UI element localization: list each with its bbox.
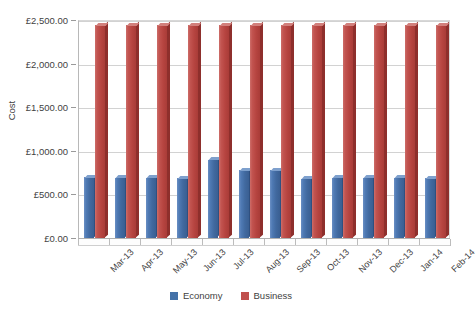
bar-top — [374, 23, 387, 26]
bar-side — [322, 22, 325, 237]
bar-side — [353, 22, 356, 237]
bar-face — [394, 178, 404, 238]
legend-label: Business — [254, 290, 293, 301]
bar-top — [188, 23, 201, 26]
x-axis-tick-label: Jun-13 — [201, 247, 228, 274]
y-axis-tick-label: £1,000.00 — [26, 145, 68, 156]
legend-swatch-business — [241, 292, 249, 300]
bar-business-jan-14[interactable] — [405, 25, 415, 238]
y-axis-tick-label: £2,500.00 — [26, 15, 68, 26]
y-axis-tick-label: £500.00 — [34, 189, 68, 200]
legend-swatch-economy — [170, 292, 178, 300]
bar-top — [126, 23, 139, 26]
bar-business-apr-13[interactable] — [126, 25, 136, 238]
bar-business-nov-13[interactable] — [343, 25, 353, 238]
bar-side — [136, 22, 139, 237]
bar-group — [295, 20, 326, 238]
bar-face — [188, 25, 198, 238]
bar-economy-sep-13[interactable] — [270, 170, 280, 238]
bar-side — [415, 22, 418, 237]
bar-business-jul-13[interactable] — [219, 25, 229, 238]
bar-business-dec-13[interactable] — [374, 25, 384, 238]
bar-economy-mar-13[interactable] — [84, 177, 94, 238]
y-axis-tick — [71, 194, 76, 195]
bar-economy-feb-14[interactable] — [425, 178, 435, 238]
legend-item[interactable]: Business — [241, 290, 293, 301]
bar-face — [239, 170, 249, 238]
x-axis-tick-label: Mar-13 — [108, 247, 135, 274]
bar-business-sep-13[interactable] — [281, 25, 291, 238]
bar-face — [219, 25, 229, 238]
bar-side — [384, 22, 387, 237]
bar-business-mar-13[interactable] — [95, 25, 105, 238]
y-axis-tick-label: £1,500.00 — [26, 102, 68, 113]
bar-face — [332, 178, 342, 238]
y-axis-tick-label: £0.00 — [44, 233, 68, 244]
bar-group — [357, 20, 388, 238]
bar-business-feb-14[interactable] — [436, 25, 446, 238]
bar-side — [446, 22, 449, 237]
bar-business-oct-13[interactable] — [312, 25, 322, 238]
bar-face — [312, 25, 322, 238]
bar-economy-jun-13[interactable] — [177, 178, 187, 238]
bar-group — [326, 20, 357, 238]
legend-item[interactable]: Economy — [170, 290, 223, 301]
bar-economy-may-13[interactable] — [146, 178, 156, 238]
bar-group — [233, 20, 264, 238]
bar-economy-jul-13[interactable] — [208, 160, 218, 238]
bar-face — [177, 178, 187, 238]
bar-side — [167, 22, 170, 237]
bar-top — [405, 23, 418, 26]
bars-layer — [78, 20, 450, 238]
bar-side — [229, 22, 232, 237]
bar-group — [264, 20, 295, 238]
chart-legend: EconomyBusiness — [0, 290, 462, 301]
bar-economy-nov-13[interactable] — [332, 178, 342, 238]
bar-top — [343, 23, 356, 26]
x-axis-tick-label: Jul-13 — [231, 247, 255, 271]
bar-economy-apr-13[interactable] — [115, 178, 125, 238]
bar-business-aug-13[interactable] — [250, 25, 260, 238]
x-axis-tick-label: Dec-13 — [387, 247, 415, 275]
bar-face — [126, 25, 136, 238]
x-axis-tick-label: Feb-14 — [449, 247, 476, 274]
bar-face — [436, 25, 446, 238]
bar-group — [202, 20, 233, 238]
bar-face — [301, 179, 311, 238]
y-axis-tick — [71, 20, 76, 21]
bar-top — [250, 23, 263, 26]
x-axis-tick-label: Sep-13 — [294, 247, 322, 275]
bar-face — [95, 25, 105, 238]
x-axis-tick-label: Jan-14 — [418, 247, 445, 274]
bar-economy-dec-13[interactable] — [363, 178, 373, 238]
bar-top — [281, 23, 294, 26]
y-axis-tick-label: £2,000.00 — [26, 58, 68, 69]
bar-face — [157, 25, 167, 238]
bar-face — [363, 178, 373, 238]
bar-side — [260, 22, 263, 237]
legend-label: Economy — [183, 290, 223, 301]
bar-top — [157, 23, 170, 26]
x-axis-tick-label: Nov-13 — [356, 247, 384, 275]
bar-business-jun-13[interactable] — [188, 25, 198, 238]
bar-top — [95, 23, 108, 26]
bar-top — [436, 23, 449, 26]
bar-face — [84, 177, 94, 238]
bar-economy-oct-13[interactable] — [301, 179, 311, 238]
y-axis-tick — [71, 238, 76, 239]
bar-group — [419, 20, 450, 238]
bar-group — [140, 20, 171, 238]
bar-face — [425, 178, 435, 238]
bar-economy-aug-13[interactable] — [239, 170, 249, 238]
bar-group — [78, 20, 109, 238]
bar-side — [105, 22, 108, 237]
bar-business-may-13[interactable] — [157, 25, 167, 238]
bar-side — [198, 22, 201, 237]
bar-economy-jan-14[interactable] — [394, 178, 404, 238]
bar-group — [109, 20, 140, 238]
x-axis-tick-label: May-13 — [170, 247, 198, 275]
bar-face — [405, 25, 415, 238]
bar-face — [146, 178, 156, 238]
bar-face — [115, 178, 125, 238]
